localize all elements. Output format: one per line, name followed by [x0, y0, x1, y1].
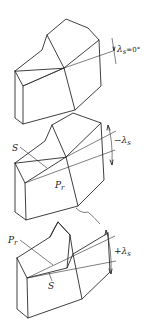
- right-face: [64, 40, 101, 110]
- angle-label-negative: −λs: [114, 135, 131, 147]
- label-Pr: Pr: [54, 180, 65, 192]
- angle-label-zero: λs=0°: [116, 44, 140, 56]
- panel-zero-inclination: λs=0°: [15, 19, 140, 124]
- right-face: [66, 123, 104, 206]
- S-leader: [20, 147, 47, 168]
- angle-label-positive: +λs: [114, 246, 131, 258]
- base-plane-line: [27, 261, 116, 278]
- S-leader: [49, 273, 52, 281]
- panel-positive-inclination: Pr S +λs: [7, 222, 131, 318]
- edge-inclination-diagram: λs=0° S Pr −λs Pr: [0, 0, 152, 334]
- top-face: [15, 19, 99, 71]
- panel-negative-inclination: S Pr −λs: [12, 113, 131, 224]
- left-flank: [15, 163, 26, 220]
- label-S: S: [48, 281, 54, 291]
- label-Pr: Pr: [7, 235, 18, 247]
- left-flank: [17, 258, 28, 318]
- edge-facet: [67, 235, 73, 268]
- angle-arc: [108, 125, 112, 165]
- label-S: S: [12, 143, 18, 153]
- edge-line: [66, 131, 116, 157]
